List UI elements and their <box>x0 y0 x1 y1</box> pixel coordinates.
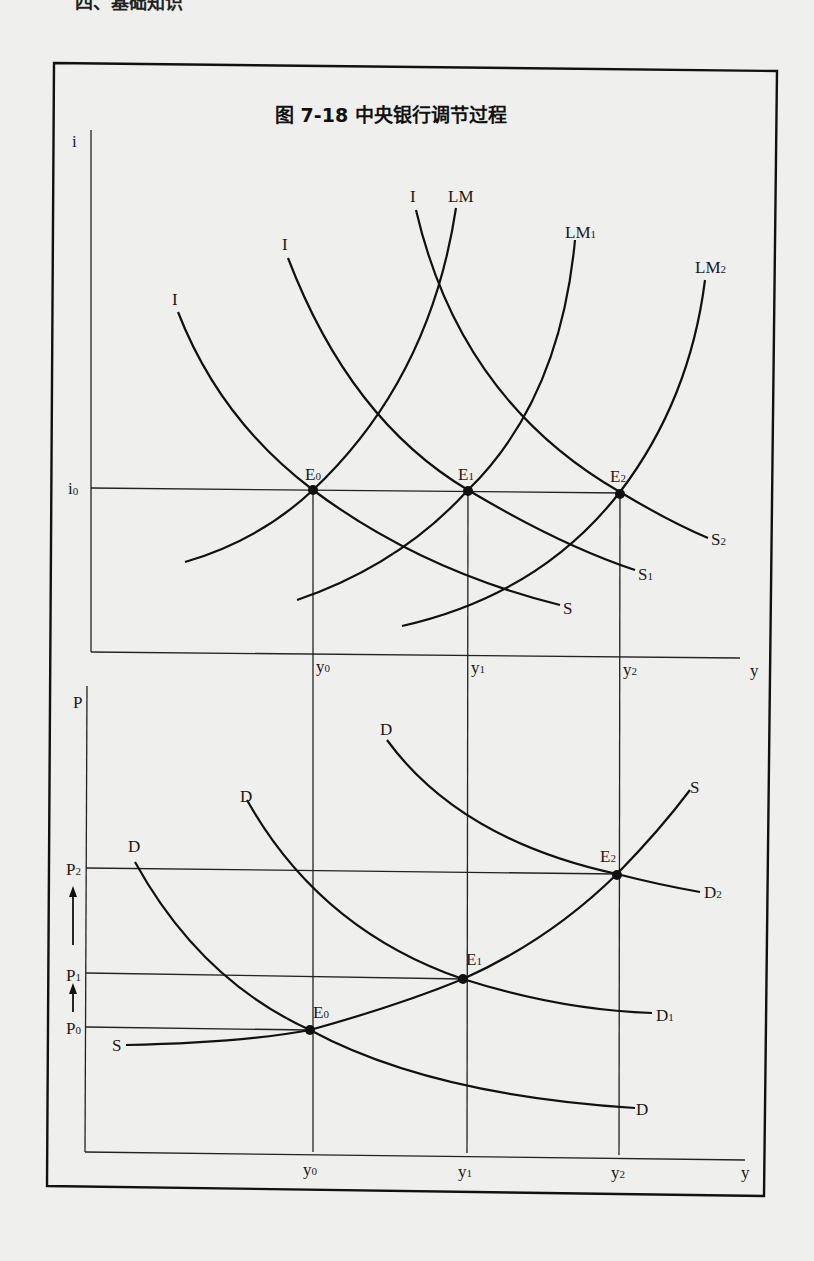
label-ad0-start: D <box>128 837 140 856</box>
is-curve-0 <box>178 312 560 605</box>
p1-line <box>86 973 463 979</box>
label-is2-start: I <box>410 187 416 206</box>
y1-guide <box>467 490 468 1153</box>
point-e1-upper <box>463 486 473 496</box>
label-y-axis-upper: y <box>750 661 759 680</box>
upper-x-axis <box>91 652 740 658</box>
lower-x-axis <box>85 1152 745 1160</box>
label-p1: P1 <box>66 966 81 985</box>
label-e2-lower: E2 <box>600 847 616 866</box>
y2-guide <box>619 492 620 1155</box>
label-as-start: S <box>112 1036 121 1055</box>
i0-line <box>91 488 622 493</box>
upper-panel: i i0 I I I LM LM1 LM2 E0 E1 E2 S S1 S2 y… <box>68 130 759 1155</box>
point-e2-upper <box>615 489 625 499</box>
label-e2-upper: E2 <box>610 467 626 486</box>
label-ad0-end: D <box>636 1100 648 1119</box>
label-i0: i0 <box>68 479 79 498</box>
point-e2-lower <box>612 870 622 880</box>
label-s: S <box>563 599 572 618</box>
figure-title: 图 7-18 中央银行调节过程 <box>275 104 507 126</box>
label-y-axis-lower: y <box>741 1163 750 1182</box>
label-y0-lower: y0 <box>303 1160 318 1179</box>
label-is1-start: I <box>282 235 288 254</box>
label-p2: P2 <box>66 860 81 879</box>
label-ad1-start: D <box>240 787 252 806</box>
point-e1-lower <box>458 974 468 984</box>
is-curve-2 <box>416 210 708 538</box>
figure-canvas: 图 7-18 中央银行调节过程 i i0 I I I LM LM1 LM2 E0… <box>0 0 814 1261</box>
label-d2: D2 <box>704 883 722 902</box>
lower-panel: P P2 P1 P0 S S D D D D D1 D2 E0 E1 E2 y0… <box>66 686 750 1182</box>
label-lm2: LM2 <box>695 258 726 277</box>
point-e0-lower <box>305 1025 315 1035</box>
p2-line <box>86 868 617 874</box>
label-lm: LM <box>448 187 474 206</box>
label-i-axis: i <box>72 132 77 151</box>
label-p0: P0 <box>66 1019 81 1038</box>
label-y2-upper: y2 <box>623 660 637 679</box>
ad-curve-2 <box>387 740 700 892</box>
label-is0-start: I <box>172 290 178 309</box>
label-y1-upper: y1 <box>471 658 485 677</box>
label-e0-upper: E0 <box>305 465 321 484</box>
label-e1-lower: E1 <box>466 950 482 969</box>
label-e0-lower: E0 <box>313 1003 329 1022</box>
label-s2: S2 <box>711 530 726 549</box>
figure-frame <box>47 63 777 1196</box>
lm-curve-0 <box>185 208 456 562</box>
label-e1-upper: E1 <box>458 465 474 484</box>
label-y1-lower: y1 <box>458 1162 472 1181</box>
label-d1: D1 <box>656 1006 674 1025</box>
p0-line <box>86 1027 310 1030</box>
lm-curve-2 <box>402 280 705 626</box>
p-axis <box>85 686 87 1152</box>
point-e0-upper <box>308 485 318 495</box>
arrow-head-p2 <box>69 886 77 897</box>
label-p-axis: P <box>73 693 82 712</box>
ad-curve-1 <box>247 800 652 1013</box>
label-y0-upper: y0 <box>316 657 331 676</box>
label-ad2-start: D <box>380 720 392 739</box>
as-curve <box>126 790 690 1045</box>
ad-curve-0 <box>135 862 635 1108</box>
label-s1: S1 <box>638 565 653 584</box>
label-y2-lower: y2 <box>611 1163 625 1182</box>
label-as-end: S <box>690 778 699 797</box>
is-curve-1 <box>288 258 635 570</box>
label-lm1: LM1 <box>565 223 596 242</box>
